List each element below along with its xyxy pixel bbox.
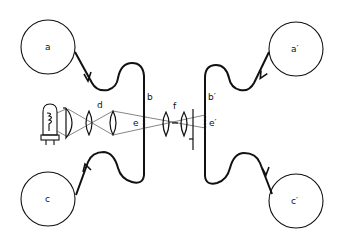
lamp-icon bbox=[41, 104, 59, 145]
label-a: a bbox=[45, 42, 51, 52]
label-c: c bbox=[45, 194, 50, 204]
direction-arrows bbox=[83, 70, 269, 175]
lens-d-2 bbox=[110, 111, 116, 135]
label-a-prime: a′ bbox=[291, 44, 299, 54]
label-c-prime: c′ bbox=[291, 196, 298, 206]
label-e: e bbox=[133, 118, 139, 128]
label-e-prime: e′ bbox=[209, 118, 217, 128]
label-b: b bbox=[147, 92, 153, 102]
label-d: d bbox=[97, 100, 103, 110]
label-b-prime: b′ bbox=[208, 92, 216, 102]
condenser-lens bbox=[63, 108, 72, 138]
label-f: f bbox=[173, 101, 177, 111]
printer-diagram: a a′ c c′ b b′ d e e′ f bbox=[0, 0, 338, 240]
shutter-plate bbox=[189, 109, 193, 150]
